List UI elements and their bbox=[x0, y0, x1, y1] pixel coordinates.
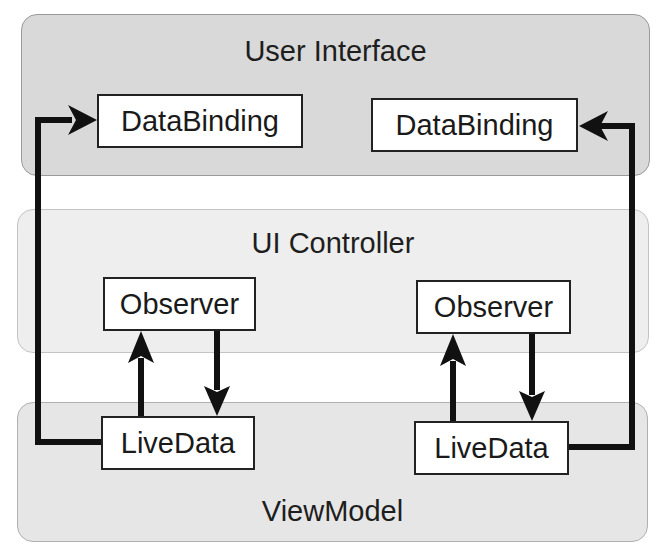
arrowhead-down-icon bbox=[519, 391, 545, 421]
livedata-left-box: LiveData bbox=[101, 416, 255, 470]
arrowhead-down-icon bbox=[204, 386, 230, 416]
observer-right-box: Observer bbox=[416, 280, 571, 334]
observer-left-box: Observer bbox=[103, 277, 256, 331]
databinding-right-box: DataBinding bbox=[371, 98, 578, 152]
arrowhead-right-icon bbox=[68, 105, 97, 135]
livedata-to-databinding-left-line bbox=[38, 120, 101, 442]
livedata-right-box: LiveData bbox=[414, 421, 569, 475]
databinding-left-box: DataBinding bbox=[97, 94, 303, 148]
livedata-to-databinding-right-line bbox=[569, 126, 632, 447]
